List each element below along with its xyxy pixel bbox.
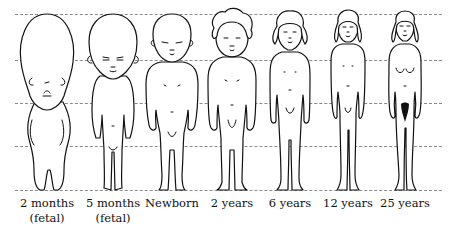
label-line1: 25 years	[370, 196, 440, 211]
figure-2-months-fetal	[12, 0, 82, 195]
label-line2: (fetal)	[12, 211, 82, 226]
body-proportions-diagram: 2 months (fetal) 5 months (fetal) Newbor…	[0, 0, 455, 234]
label-2-months-fetal: 2 months (fetal)	[12, 196, 82, 226]
label-25-years: 25 years	[370, 196, 440, 211]
label-line1: 2 months	[12, 196, 82, 211]
figure-25-years	[370, 0, 440, 195]
label-line2: (fetal)	[78, 211, 148, 226]
